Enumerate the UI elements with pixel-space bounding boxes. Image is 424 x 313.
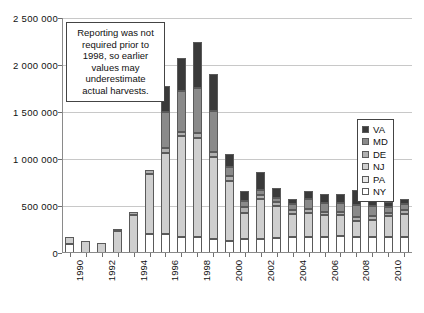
x-axis: 1990199219941996199820002002200420062008… xyxy=(62,253,412,313)
x-axis-tick xyxy=(70,253,71,257)
legend-swatch-icon xyxy=(362,188,369,195)
stacked-bar-chart: 2 500 0002 000 0001 500 0001 000 000500 … xyxy=(0,0,424,313)
legend-item-NJ: NJ xyxy=(362,161,388,174)
x-axis-tick-label: 2004 xyxy=(297,260,308,281)
x-axis-tick xyxy=(404,253,405,257)
legend-item-DE: DE xyxy=(362,148,388,161)
x-axis-tick xyxy=(118,253,119,257)
legend-swatch-icon xyxy=(362,126,369,133)
x-axis-tick-label: 1994 xyxy=(138,260,149,281)
x-axis-tick xyxy=(150,253,151,257)
legend-item-PA: PA xyxy=(362,173,388,186)
x-axis-tick xyxy=(181,253,182,257)
legend-swatch-icon xyxy=(362,151,369,158)
y-axis: 2 500 0002 000 0001 500 0001 000 000500 … xyxy=(0,18,58,253)
legend-swatch-icon xyxy=(362,163,369,170)
x-axis-tick xyxy=(165,253,166,257)
x-axis-tick xyxy=(245,253,246,257)
x-axis-tick xyxy=(134,253,135,257)
x-axis-tick xyxy=(356,253,357,257)
legend-item-NY: NY xyxy=(362,186,388,199)
x-axis-tick-label: 2000 xyxy=(233,260,244,281)
x-axis-tick xyxy=(325,253,326,257)
legend-label: MD xyxy=(373,137,388,147)
x-axis-tick xyxy=(293,253,294,257)
y-axis-tick-label: 500 000 xyxy=(22,201,58,212)
x-axis-tick xyxy=(261,253,262,257)
annotation-textbox: Reporting was not required prior to 1998… xyxy=(66,22,165,102)
x-axis-tick xyxy=(229,253,230,257)
legend-swatch-icon xyxy=(362,176,369,183)
x-axis-tick xyxy=(340,253,341,257)
legend-label: PA xyxy=(373,175,385,185)
x-axis-tick xyxy=(213,253,214,257)
legend-label: VA xyxy=(373,125,385,135)
x-axis-tick xyxy=(388,253,389,257)
x-axis-tick-label: 1996 xyxy=(169,260,180,281)
y-axis-tick-label: 1 000 000 xyxy=(13,154,58,165)
legend-item-VA: VA xyxy=(362,123,388,136)
legend-label: DE xyxy=(373,150,386,160)
x-axis-tick-label: 2006 xyxy=(329,260,340,281)
x-axis-tick-label: 2008 xyxy=(360,260,371,281)
x-axis-tick-label: 1990 xyxy=(74,260,85,281)
x-axis-tick xyxy=(277,253,278,257)
x-axis-tick-label: 1998 xyxy=(201,260,212,281)
x-axis-tick xyxy=(372,253,373,257)
x-axis-tick-label: 2002 xyxy=(265,260,276,281)
x-axis-tick xyxy=(102,253,103,257)
x-axis-tick xyxy=(197,253,198,257)
y-axis-tick-label: 1 500 000 xyxy=(13,107,58,118)
legend: VAMDDENJPANY xyxy=(357,119,394,202)
legend-swatch-icon xyxy=(362,138,369,145)
legend-item-MD: MD xyxy=(362,136,388,149)
x-axis-tick xyxy=(86,253,87,257)
x-axis-tick-label: 1992 xyxy=(106,260,117,281)
legend-label: NY xyxy=(373,187,386,197)
y-axis-tick-label: 2 000 000 xyxy=(13,60,58,71)
y-axis-tick-label: 2 500 000 xyxy=(13,13,58,24)
legend-label: NJ xyxy=(373,162,385,172)
x-axis-tick-label: 2010 xyxy=(392,260,403,281)
x-axis-tick xyxy=(309,253,310,257)
